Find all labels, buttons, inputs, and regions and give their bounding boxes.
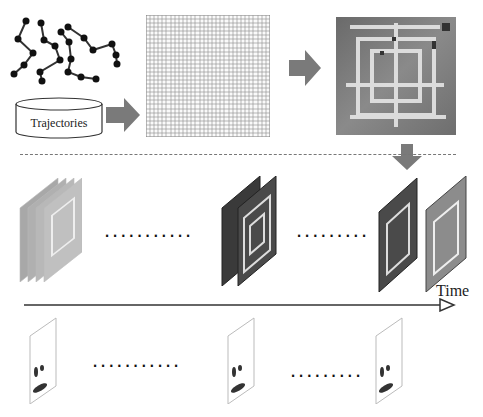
sparse-frame-icon — [28, 316, 58, 404]
trajectory-lines-icon — [0, 0, 140, 90]
grid-map-icon — [146, 15, 270, 137]
arrow-down-icon — [392, 144, 422, 170]
heatmap-frame-dark-icon — [377, 178, 419, 292]
ellipsis: ......... — [290, 365, 363, 375]
sparse-frame-icon — [374, 316, 404, 404]
trajectories-label: Trajectories — [14, 116, 104, 131]
ellipsis: ........... — [104, 225, 193, 235]
arrow-right-icon — [106, 98, 140, 132]
heatmap-stack-dark-icon — [220, 176, 280, 286]
ellipsis: ......... — [296, 225, 369, 235]
time-axis-arrow — [24, 298, 456, 312]
arrow-right-icon — [289, 50, 321, 86]
ellipsis: ........... — [92, 355, 181, 365]
sparse-frame-icon — [226, 316, 256, 404]
dashed-separator — [20, 154, 456, 155]
heatmap-stack-light-icon — [18, 178, 82, 282]
heatmap-frame-light-icon — [424, 176, 468, 292]
heatmap-icon — [336, 17, 456, 135]
